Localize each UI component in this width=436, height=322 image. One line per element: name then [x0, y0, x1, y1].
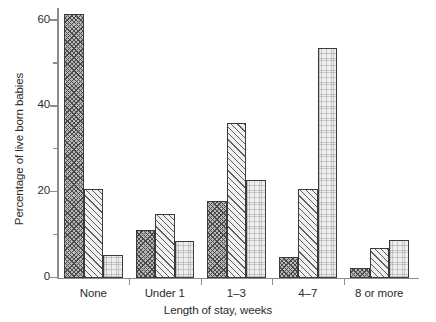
x-axis-tick-label: 4–7: [298, 287, 317, 299]
bar-chart-figure: 0204060 Length of stay, weeks Percentage…: [0, 0, 436, 322]
y-axis-tick-label: 60: [4, 13, 50, 25]
bar: [84, 189, 104, 278]
y-axis-tick-major: [50, 105, 58, 106]
y-axis-title: Percentage of live born babies: [13, 44, 25, 254]
bar: [103, 255, 123, 278]
bar: [318, 48, 338, 278]
y-axis-tick-major: [50, 191, 58, 192]
y-axis-tick-label: 0: [4, 270, 50, 282]
bar: [64, 14, 84, 278]
x-axis-tick-label: None: [80, 287, 107, 299]
y-axis-tick-major: [50, 19, 58, 20]
bar: [298, 189, 318, 278]
bar: [136, 230, 156, 278]
x-axis-tick: [344, 279, 345, 285]
x-axis-tick: [272, 279, 273, 285]
bar: [350, 268, 370, 278]
bar: [207, 201, 227, 278]
x-axis-tick: [201, 279, 202, 285]
x-axis-tick-label: 1–3: [227, 287, 246, 299]
y-axis-tick-labels: 0204060: [0, 0, 50, 322]
y-axis-tick-major: [50, 277, 58, 278]
y-axis-tick-label: 40: [4, 98, 50, 110]
x-axis-tick-label: 8 or more: [355, 287, 403, 299]
plot-area: [58, 8, 418, 278]
bar: [389, 240, 409, 278]
bar: [279, 257, 299, 278]
bar: [227, 123, 247, 278]
x-axis-title: Length of stay, weeks: [0, 304, 436, 316]
bar: [370, 248, 390, 278]
y-axis-tick-label: 20: [4, 184, 50, 196]
bar: [175, 241, 195, 278]
x-axis-tick: [129, 279, 130, 285]
bar: [246, 180, 266, 278]
x-axis-tick-label: Under 1: [145, 287, 185, 299]
bar: [155, 214, 175, 278]
